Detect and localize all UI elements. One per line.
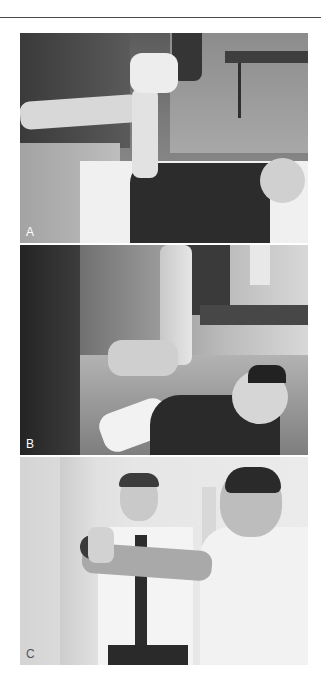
patient-hair: [225, 467, 281, 493]
patient-forearm: [132, 88, 158, 178]
patient-hand: [88, 527, 114, 563]
therapist-hair: [119, 473, 159, 487]
treatment-table: [200, 305, 308, 325]
therapist-body: [20, 245, 80, 455]
patient-hair: [248, 365, 286, 383]
panel-label-a: A: [26, 226, 34, 238]
cart: [250, 245, 270, 285]
figure-panel-a: A: [20, 33, 308, 243]
panel-label-b: B: [26, 438, 34, 450]
patient-shirt: [200, 527, 308, 665]
therapist-torso: [20, 33, 130, 148]
figure-panel-b: B: [20, 245, 308, 455]
patient-head: [260, 158, 305, 203]
therapist-pants: [108, 645, 188, 665]
patient-fist: [130, 53, 178, 93]
header-rule: [0, 17, 321, 18]
treatment-table: [225, 51, 308, 63]
table-leg: [238, 63, 241, 118]
panel-label-c: C: [26, 648, 35, 660]
therapist-hands: [108, 340, 178, 376]
figure-panel-c: C: [20, 457, 308, 665]
